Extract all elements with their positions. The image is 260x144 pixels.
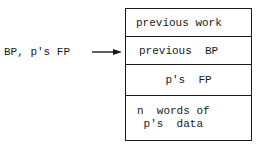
- stack-cell-previous-bp: previous BP: [126, 37, 251, 65]
- right-arrow-icon: [92, 46, 122, 58]
- stack-cell-previous-work: previous work: [126, 9, 251, 37]
- stack-cell-data: n words of p's data: [126, 96, 251, 140]
- stack-frame: previous work previous BP p's FP n words…: [125, 8, 252, 141]
- stack-cell-fp: p's FP: [126, 65, 251, 96]
- pointer-label: BP, p's FP: [4, 46, 70, 58]
